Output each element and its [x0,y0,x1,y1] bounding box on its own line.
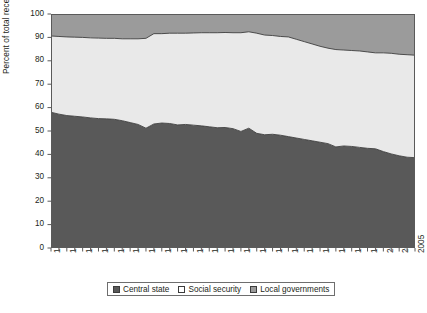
legend-swatch-local-governments [250,286,257,293]
legend-item-local-governments: Local governments [250,285,329,294]
figure-container: Percent of total receipts 01020304050607… [0,0,427,313]
legend-label-social-security: Social security [188,285,241,294]
legend-label-central-state: Central state [123,285,169,294]
legend-item-social-security: Social security [178,285,241,294]
legend-swatch-social-security [178,286,185,293]
legend-item-central-state: Central state [113,285,169,294]
chart-legend: Central state Social security Local gove… [107,282,335,296]
legend-label-local-governments: Local governments [260,285,329,294]
stacked-area-plot [0,0,427,313]
legend-swatch-central-state [113,286,120,293]
